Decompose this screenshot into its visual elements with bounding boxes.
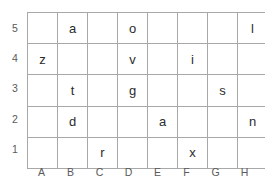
cell-E3[interactable]: [148, 75, 178, 106]
cell-C3[interactable]: [88, 75, 118, 106]
cell-A1[interactable]: [28, 137, 58, 168]
cell-H5[interactable]: l: [238, 13, 266, 44]
cell-D2[interactable]: [118, 106, 148, 137]
cell-A2[interactable]: [28, 106, 58, 137]
cell-H3[interactable]: [238, 75, 266, 106]
cell-G3[interactable]: s: [208, 75, 238, 106]
column-label-A: A: [27, 167, 56, 178]
cell-B1[interactable]: [58, 137, 88, 168]
cell-F4[interactable]: i: [178, 44, 208, 75]
cell-A4[interactable]: z: [28, 44, 58, 75]
cell-B2[interactable]: d: [58, 106, 88, 137]
cell-C1[interactable]: r: [88, 137, 118, 168]
cell-H4[interactable]: [238, 44, 266, 75]
row-label-2: 2: [6, 114, 24, 125]
cell-G4[interactable]: [208, 44, 238, 75]
column-label-G: G: [201, 167, 230, 178]
cell-F3[interactable]: [178, 75, 208, 106]
cell-G2[interactable]: [208, 106, 238, 137]
cell-C4[interactable]: [88, 44, 118, 75]
grid-row-3: t g s: [28, 75, 266, 106]
cell-D3[interactable]: g: [118, 75, 148, 106]
cell-G1[interactable]: [208, 137, 238, 168]
cell-B3[interactable]: t: [58, 75, 88, 106]
row-label-1: 1: [6, 144, 24, 155]
cell-C2[interactable]: [88, 106, 118, 137]
column-label-D: D: [114, 167, 143, 178]
column-label-E: E: [143, 167, 172, 178]
cell-H1[interactable]: [238, 137, 266, 168]
cell-C5[interactable]: [88, 13, 118, 44]
column-label-F: F: [172, 167, 201, 178]
column-label-C: C: [85, 167, 114, 178]
column-label-B: B: [56, 167, 85, 178]
cell-F5[interactable]: [178, 13, 208, 44]
cell-F2[interactable]: [178, 106, 208, 137]
cell-E2[interactable]: a: [148, 106, 178, 137]
cell-B4[interactable]: [58, 44, 88, 75]
cell-H2[interactable]: n: [238, 106, 266, 137]
cell-D5[interactable]: o: [118, 13, 148, 44]
grid-row-4: z v i: [28, 44, 266, 75]
row-label-5: 5: [6, 23, 24, 34]
cell-D1[interactable]: [118, 137, 148, 168]
cell-D4[interactable]: v: [118, 44, 148, 75]
cell-E4[interactable]: [148, 44, 178, 75]
grid-row-2: d a n: [28, 106, 266, 137]
cell-G5[interactable]: [208, 13, 238, 44]
grid-row-5: a o l: [28, 13, 266, 44]
cell-E5[interactable]: [148, 13, 178, 44]
column-label-H: H: [230, 167, 259, 178]
cell-F1[interactable]: x: [178, 137, 208, 168]
cell-E1[interactable]: [148, 137, 178, 168]
letter-grid-figure: 5 4 3 2 1 a o l z v i: [0, 0, 265, 190]
cell-B5[interactable]: a: [58, 13, 88, 44]
row-label-4: 4: [6, 53, 24, 64]
cell-A5[interactable]: [28, 13, 58, 44]
grid-row-1: r x: [28, 137, 266, 168]
cell-A3[interactable]: [28, 75, 58, 106]
row-label-3: 3: [6, 83, 24, 94]
coordinate-grid: a o l z v i t g: [27, 12, 265, 169]
